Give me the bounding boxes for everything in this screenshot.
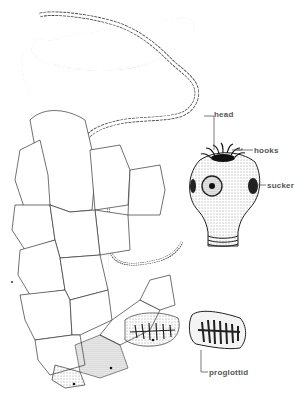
label-head: head	[214, 110, 233, 119]
sucker-left-edge	[190, 179, 196, 193]
proglottid-detail	[189, 311, 245, 348]
rostellum	[211, 154, 235, 162]
label-sucker: sucker	[267, 181, 294, 190]
label-proglottid: proglottid	[209, 368, 248, 377]
sucker-left	[202, 176, 222, 196]
label-hooks: hooks	[254, 146, 279, 155]
stray-dot	[11, 281, 13, 283]
tapeworm-illustration	[0, 0, 297, 397]
sucker-right	[248, 178, 258, 194]
strobila-body	[12, 111, 179, 388]
scolex-head	[190, 143, 260, 246]
